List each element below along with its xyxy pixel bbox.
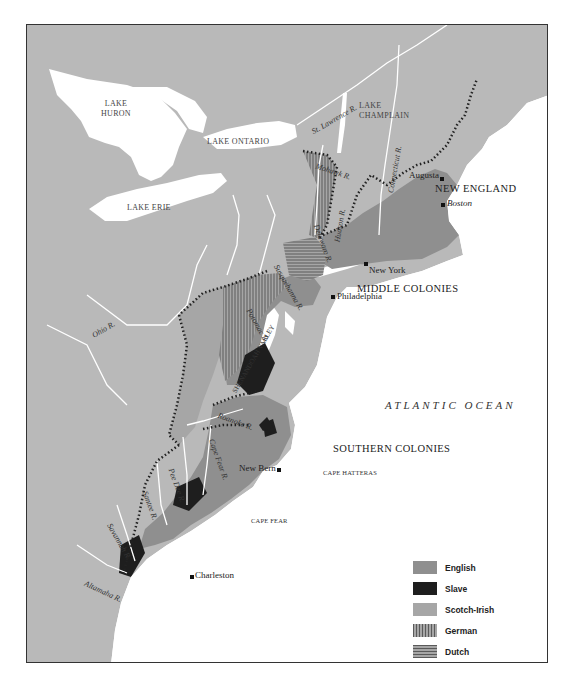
cape-hatteras-label: CAPE HATTERAS — [323, 469, 377, 476]
city-new-york-label: New York — [369, 265, 406, 275]
scotch-irish-swatch-icon — [413, 603, 437, 616]
region-new-england-label: NEW ENGLAND — [435, 183, 516, 194]
city-charleston-label: Charleston — [195, 570, 234, 580]
city-augusta-label: Augusta — [409, 170, 439, 180]
city-dot-new-york — [364, 262, 368, 266]
map-legend: English Slave Scotch-Irish German Dutch … — [413, 557, 523, 663]
city-dot-new-bern — [277, 468, 281, 472]
legend-item-german: German — [413, 620, 523, 641]
map-frame: LAKE HURON LAKE ONTARIO LAKE ERIE LAKE C… — [26, 24, 548, 663]
lake-ontario-label: LAKE ONTARIO — [207, 137, 269, 147]
city-philadelphia-label: Philadelphia — [337, 291, 382, 301]
city-dot-philadelphia — [331, 295, 335, 299]
english-swatch-icon — [413, 561, 437, 574]
city-dot-charleston — [190, 575, 194, 579]
lake-huron-label: LAKE HURON — [101, 99, 131, 119]
cape-fear-label: CAPE FEAR — [251, 517, 288, 524]
city-dot-boston — [441, 203, 445, 207]
legend-item-slave: Slave — [413, 578, 523, 599]
lake-champlain-label: LAKE CHAMPLAIN — [359, 101, 409, 121]
city-new-bern-label: New Bern — [239, 463, 276, 473]
lake-erie-label: LAKE ERIE — [127, 203, 171, 213]
city-dot-augusta — [440, 177, 444, 181]
atlantic-ocean-label: ATLANTIC OCEAN — [385, 399, 516, 411]
dutch-swatch-icon — [413, 645, 437, 658]
slave-swatch-icon — [413, 582, 437, 595]
german-swatch-icon — [413, 624, 437, 637]
legend-item-frontier: Settlement Frontier — [413, 662, 523, 663]
legend-item-english: English — [413, 557, 523, 578]
legend-item-dutch: Dutch — [413, 641, 523, 662]
legend-item-scotch-irish: Scotch-Irish — [413, 599, 523, 620]
region-southern-colonies-label: SOUTHERN COLONIES — [333, 443, 450, 454]
city-boston-label: Boston — [447, 198, 472, 208]
